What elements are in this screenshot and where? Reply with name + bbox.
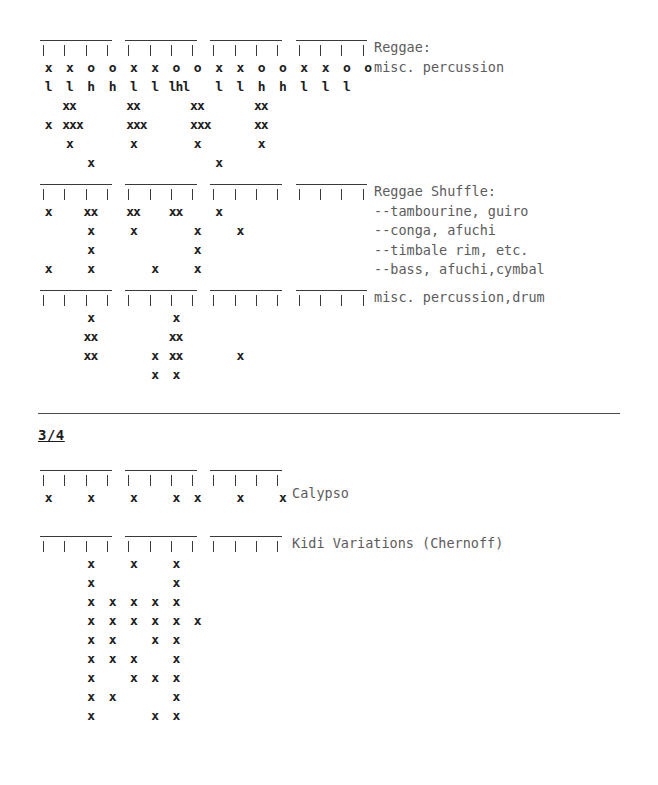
note-cell: x [187,240,208,259]
beat-tick [256,475,257,486]
note-cell: x [81,592,102,611]
note-cell: x [38,202,59,221]
note-cell: x [166,630,187,649]
note-cell: xxx [123,115,190,134]
note-cell: x [123,488,144,507]
beam-bar [210,184,282,185]
beat-tick [341,295,342,306]
beat-tick [43,475,44,486]
note-cell: xx [187,96,233,115]
beat-tick [192,45,193,56]
pattern-label-line: --bass, afuchi,cymbal [374,260,545,280]
beat-tick [341,45,342,56]
note-cell: o [81,58,102,77]
beat-tick [86,475,87,486]
note-cell: xx [251,96,297,115]
note-cell: x [81,308,102,327]
note-cell: x [81,488,102,507]
beat-tick [107,295,108,306]
note-cell: l [294,77,315,96]
beat-tick [213,541,214,552]
note-cell: x [166,488,187,507]
beat-tick [277,189,278,200]
beat-tick [171,295,172,306]
beat-tick [128,295,129,306]
note-cell: x [123,592,144,611]
note-cell: h [81,77,102,96]
note-cell: lhl [166,77,212,96]
beat-tick [299,189,300,200]
note-cell: x [230,58,251,77]
beat-tick [213,475,214,486]
beat-tick [277,45,278,56]
note-cell: x [81,153,102,172]
beam-bar [125,470,197,471]
pattern-label-line: Kidi Variations (Chernoff) [292,534,503,554]
note-cell: xx [81,327,127,346]
note-cell: x [38,259,59,278]
beat-tick [277,295,278,306]
beat-tick [235,475,236,486]
beam-bar [210,470,282,471]
note-cell: x [166,668,187,687]
pattern-label-line: Reggae Shuffle: [374,182,545,202]
pattern-labels-kidi-variations: Kidi Variations (Chernoff) [292,534,503,554]
beat-tick [43,541,44,552]
beat-tick [64,189,65,200]
note-cell: l [59,77,80,96]
beat-tick [235,45,236,56]
note-cell: l [145,77,166,96]
note-cell: x [145,346,166,365]
note-cell: x [166,573,187,592]
beat-tick [150,475,151,486]
note-cell: x [230,346,251,365]
beat-tick [150,45,151,56]
pattern-label-line: --timbale rim, etc. [374,241,545,261]
beat-tick [235,541,236,552]
note-cell: l [38,77,59,96]
beat-tick [43,295,44,306]
note-cell: x [166,706,187,725]
note-cell: x [187,488,208,507]
note-cell: x [123,58,144,77]
note-cell: xx [166,346,212,365]
note-cell: x [59,58,80,77]
beat-tick [192,189,193,200]
beat-tick [363,45,364,56]
note-cell: x [187,611,208,630]
beat-tick [150,295,151,306]
note-cell: xx [59,96,105,115]
beat-tick [277,541,278,552]
beat-tick [192,475,193,486]
beat-tick [64,295,65,306]
beam-bar [296,290,368,291]
beat-tick [341,189,342,200]
beat-tick [107,475,108,486]
beat-tick [107,189,108,200]
beat-tick [192,295,193,306]
note-cell: x [272,488,293,507]
note-cell: x [123,611,144,630]
note-cell: x [166,308,187,327]
note-cell: x [230,221,251,240]
note-cell: x [123,668,144,687]
beam-bar [210,40,282,41]
section-divider-rule [38,413,620,414]
note-cell: o [102,58,123,77]
note-cell: x [81,554,102,573]
note-cell: o [336,58,357,77]
beat-tick [213,189,214,200]
note-cell: xx [166,202,212,221]
note-cell: x [145,592,166,611]
note-cell: xx [123,96,169,115]
beam-bar [40,536,112,537]
note-cell: x [102,687,123,706]
beat-tick [235,189,236,200]
note-cell: x [166,611,187,630]
note-cell: xx [81,346,127,365]
pattern-labels-reggae: Reggae:misc. percussion [374,38,504,77]
beat-tick [128,541,129,552]
note-cell: x [81,573,102,592]
note-cell: x [123,554,144,573]
note-cell: x [208,202,229,221]
